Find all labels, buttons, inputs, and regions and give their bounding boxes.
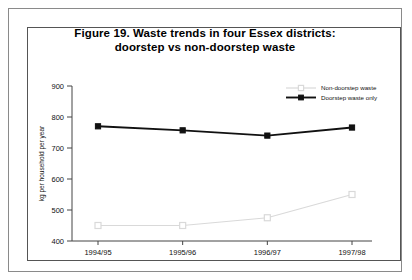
line-chart: 400500600700800900 1994/951995/961996/97… xyxy=(0,0,412,280)
chart-plot-area: 400500600700800900 1994/951995/961996/97… xyxy=(0,0,412,280)
legend-item: Doorstep waste only xyxy=(286,94,378,101)
x-tick-label: 1995/96 xyxy=(169,248,196,257)
series-data-point xyxy=(349,192,355,198)
series-data-point xyxy=(265,133,270,138)
y-tick-label: 900 xyxy=(51,82,64,91)
y-axis-ticks: 400500600700800900 xyxy=(51,82,72,246)
chart-series xyxy=(95,192,355,229)
legend-marker xyxy=(299,95,304,100)
x-axis-ticks: 1994/951995/961996/971997/98 xyxy=(84,241,365,257)
y-tick-label: 600 xyxy=(51,175,64,184)
y-tick-label: 500 xyxy=(51,206,64,215)
y-tick-label: 400 xyxy=(51,237,64,246)
x-tick-label: 1997/98 xyxy=(338,248,365,257)
chart-series xyxy=(95,124,354,139)
y-tick-label: 700 xyxy=(51,144,64,153)
series-data-point xyxy=(95,124,100,129)
legend-item: Non-doorstep waste xyxy=(286,84,377,91)
legend-label: Doorstep waste only xyxy=(321,94,378,101)
series-data-point xyxy=(180,223,186,229)
series-data-point xyxy=(349,125,354,130)
series-line xyxy=(98,126,352,135)
y-axis-title: kg per household per year xyxy=(38,125,46,201)
series-data-point xyxy=(180,128,185,133)
x-tick-label: 1996/97 xyxy=(254,248,281,257)
chart-legend: Non-doorstep wasteDoorstep waste only xyxy=(286,84,378,101)
y-axis-label-text: kg per household per year xyxy=(38,125,46,201)
chart-axes xyxy=(72,86,372,241)
series-data-point xyxy=(264,215,270,221)
series-line xyxy=(98,195,352,226)
legend-label: Non-doorstep waste xyxy=(321,84,377,91)
chart-series-group xyxy=(95,124,355,229)
legend-marker xyxy=(298,85,303,90)
x-tick-label: 1994/95 xyxy=(84,248,111,257)
y-tick-label: 800 xyxy=(51,113,64,122)
series-data-point xyxy=(95,223,101,229)
